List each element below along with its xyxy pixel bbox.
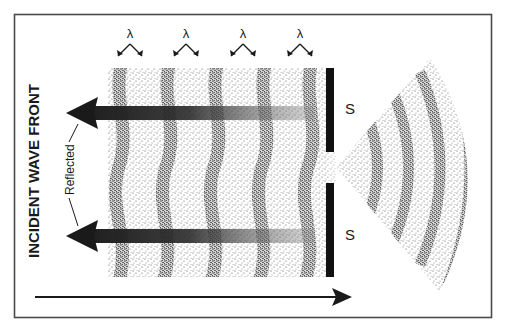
svg-text:λ: λ xyxy=(127,26,134,41)
svg-text:λ: λ xyxy=(297,26,304,41)
barrier-upper xyxy=(326,68,334,152)
barrier-label-lower: S xyxy=(345,226,355,243)
incident-wave-front-label: INCIDENT WAVE FRONT xyxy=(25,84,42,258)
barrier-label-upper: S xyxy=(345,100,355,117)
incident-wave-region xyxy=(108,60,328,285)
slit-opening xyxy=(326,152,336,183)
barrier-lower xyxy=(326,183,334,277)
svg-text:λ: λ xyxy=(240,26,247,41)
wave-diffraction-diagram: INCIDENT WAVE FRONT Reflected λ λ λ λ S … xyxy=(0,0,505,329)
svg-text:λ: λ xyxy=(183,26,190,41)
reflected-label: Reflected xyxy=(63,144,77,195)
